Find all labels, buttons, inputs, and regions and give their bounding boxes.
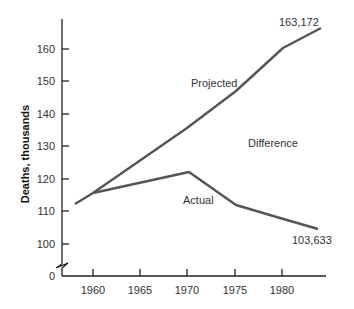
chart: 160 150 140 130 120 110 100 0 1960 1965 … — [0, 0, 354, 309]
difference-label: Difference — [248, 137, 298, 149]
x-tick-labels: 1960 1965 1970 1975 1980 — [81, 284, 294, 296]
y-tick-0: 0 — [49, 270, 55, 282]
y-tick-140: 140 — [37, 108, 55, 120]
y-tick-100: 100 — [37, 238, 55, 250]
y-tick-110: 110 — [37, 205, 55, 217]
y-axis-label: Deaths, thousands — [19, 105, 31, 203]
x-ticks — [93, 269, 282, 276]
y-tick-160: 160 — [37, 43, 55, 55]
y-tick-150: 150 — [37, 75, 55, 87]
x-tick-1970: 1970 — [175, 284, 199, 296]
y-tick-labels: 160 150 140 130 120 110 100 0 — [37, 43, 55, 282]
x-tick-1980: 1980 — [270, 284, 294, 296]
y-tick-120: 120 — [37, 173, 55, 185]
axis-break-icon — [56, 263, 68, 276]
x-tick-1965: 1965 — [128, 284, 152, 296]
projected-end-value: 163,172 — [279, 16, 319, 28]
projected-label: Projected — [191, 77, 237, 89]
actual-end-value: 103,633 — [292, 234, 332, 246]
x-tick-1975: 1975 — [223, 284, 247, 296]
actual-label: Actual — [183, 194, 214, 206]
x-tick-1960: 1960 — [81, 284, 105, 296]
y-tick-130: 130 — [37, 140, 55, 152]
y-ticks — [62, 49, 69, 244]
